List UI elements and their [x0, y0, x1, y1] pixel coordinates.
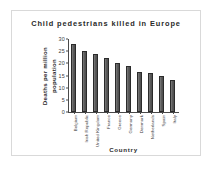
x-axis-tick-label-text: Germany [128, 115, 133, 133]
y-axis-tick-mark [66, 87, 68, 88]
x-axis-tick-label: France [108, 101, 113, 115]
x-axis-tick-label-text: United Kingdom [95, 115, 100, 147]
x-axis-tick-label-text: Irish Republic [84, 115, 89, 142]
x-axis-tick-label-text: Belgium [73, 115, 78, 131]
chart-title: Child pedestrians killed in Europe [11, 19, 201, 28]
y-axis-tick-mark [66, 51, 68, 52]
x-axis-tick-label-text: Denmark [139, 115, 144, 133]
x-axis-tick-label: Germany [130, 97, 135, 115]
y-axis-tick-mark [66, 39, 68, 40]
x-axis-tick-label: Belgium [75, 99, 80, 115]
x-axis-tick-label: Spain [163, 104, 168, 116]
y-axis-title-line2: population [50, 59, 57, 93]
x-axis-title: Country [68, 146, 179, 153]
x-axis-tick-label: Netherlands [152, 91, 157, 115]
x-axis-tick-label-text: Greece [117, 115, 122, 130]
x-axis-tick-label-text: Netherlands [150, 115, 155, 139]
x-axis-tick-label: Irish Republic [86, 88, 91, 115]
x-axis-tick-label-text: Spain [161, 115, 166, 127]
x-axis-tick-label-text: France [106, 115, 111, 129]
y-axis-title-line1: Deaths per million [41, 47, 48, 105]
y-axis-tick-mark [66, 75, 68, 76]
y-axis-tick-mark [66, 112, 68, 113]
y-axis-title: Deaths per million population [40, 39, 60, 113]
x-axis-tick-label: Italy [174, 107, 179, 115]
y-axis-tick-mark [66, 63, 68, 64]
plot-area: 051015202530BelgiumIrish RepublicUnited … [68, 39, 178, 112]
x-axis-tick-label: United Kingdom [97, 83, 102, 115]
y-axis-tick-mark [66, 99, 68, 100]
x-axis-tick-label-text: Italy [172, 115, 177, 123]
x-axis-tick-label: Greece [119, 100, 124, 115]
chart-figure: Child pedestrians killed in Europe Death… [0, 0, 215, 169]
x-axis-tick-label: Denmark [141, 97, 146, 115]
